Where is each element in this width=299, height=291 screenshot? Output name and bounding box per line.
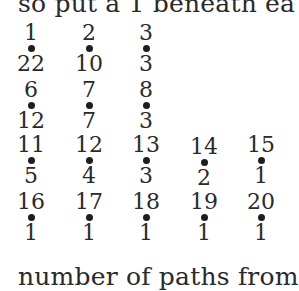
grid-cell: 12 4 bbox=[69, 134, 109, 187]
vertex-label: 8 bbox=[126, 79, 166, 101]
path-count: 1 bbox=[241, 222, 281, 244]
grid-cell: 8 3 bbox=[126, 79, 166, 132]
path-count: 4 bbox=[69, 165, 109, 187]
path-count: 1 bbox=[126, 222, 166, 244]
path-count: 7 bbox=[69, 110, 109, 132]
vertex-label: 15 bbox=[241, 134, 281, 156]
path-count: 1 bbox=[241, 165, 281, 187]
grid-cell: 14 2 bbox=[184, 136, 224, 189]
grid-cell: 13 3 bbox=[126, 134, 166, 187]
vertex-label: 14 bbox=[184, 136, 224, 158]
grid-cell: 19 1 bbox=[184, 191, 224, 244]
vertex-label: 13 bbox=[126, 134, 166, 156]
grid-cell: 7 7 bbox=[69, 79, 109, 132]
path-count: 1 bbox=[184, 222, 224, 244]
grid-cell: 15 1 bbox=[241, 134, 281, 187]
path-count: 12 bbox=[11, 110, 51, 132]
vertex-label: 16 bbox=[11, 191, 51, 213]
vertex-label: 20 bbox=[241, 191, 281, 213]
grid-cell: 3 3 bbox=[126, 22, 166, 75]
vertex-label: 2 bbox=[69, 22, 109, 44]
vertex-label: 19 bbox=[184, 191, 224, 213]
path-count: 1 bbox=[69, 222, 109, 244]
path-count: 3 bbox=[126, 110, 166, 132]
vertex-label: 3 bbox=[126, 22, 166, 44]
grid-cell: 2 10 bbox=[69, 22, 109, 75]
grid-cell: 6 12 bbox=[11, 79, 51, 132]
grid-cell: 11 5 bbox=[11, 134, 51, 187]
vertex-label: 7 bbox=[69, 79, 109, 101]
grid-cell: 18 1 bbox=[126, 191, 166, 244]
path-count: 2 bbox=[184, 167, 224, 189]
bottom-text-line: number of paths from bbox=[18, 264, 299, 289]
top-text-line: so put a 1 beneath ea bbox=[18, 0, 295, 16]
vertex-label: 18 bbox=[126, 191, 166, 213]
vertex-label: 12 bbox=[69, 134, 109, 156]
grid-cell: 16 1 bbox=[11, 191, 51, 244]
path-count: 5 bbox=[11, 165, 51, 187]
path-count: 3 bbox=[126, 165, 166, 187]
path-count: 1 bbox=[11, 222, 51, 244]
grid-cell: 17 1 bbox=[69, 191, 109, 244]
vertex-label: 1 bbox=[11, 22, 51, 44]
vertex-label: 6 bbox=[11, 79, 51, 101]
vertex-label: 17 bbox=[69, 191, 109, 213]
path-count: 22 bbox=[11, 53, 51, 75]
path-count: 3 bbox=[126, 53, 166, 75]
grid-cell: 20 1 bbox=[241, 191, 281, 244]
grid-cell: 1 22 bbox=[11, 22, 51, 75]
path-count: 10 bbox=[69, 53, 109, 75]
vertex-label: 11 bbox=[11, 134, 51, 156]
